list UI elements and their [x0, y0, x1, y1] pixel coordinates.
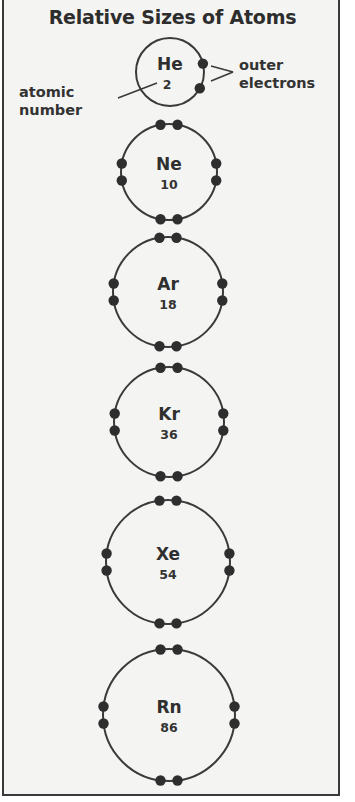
- outer-electrons-label-line2: electrons: [239, 74, 315, 92]
- electron-dot: [195, 83, 205, 93]
- electron-dot: [172, 644, 182, 654]
- element-symbol: Ne: [156, 154, 182, 174]
- atom-ne: Ne10: [117, 120, 222, 225]
- electron-dot: [172, 214, 182, 224]
- electron-dot: [171, 233, 181, 243]
- atomic-number: 2: [163, 77, 172, 92]
- electron-dot: [229, 718, 239, 728]
- electron-dot: [154, 618, 164, 628]
- electron-dot: [198, 58, 208, 68]
- atomic-number-label-line2: number: [19, 101, 82, 119]
- electron-dot: [229, 701, 239, 711]
- atom-xe: Xe54: [101, 495, 234, 628]
- element-symbol: Ar: [157, 274, 179, 294]
- electron-dot: [224, 565, 234, 575]
- electron-dot: [155, 363, 165, 373]
- element-symbol: He: [157, 54, 183, 74]
- atoms-diagram: He2Ne10Ar18Kr36Xe54Rn86: [0, 0, 355, 802]
- electron-dot: [110, 425, 120, 435]
- electron-dot: [155, 120, 165, 130]
- atom-kr: Kr36: [110, 363, 229, 482]
- electron-dot: [154, 233, 164, 243]
- element-symbol: Xe: [156, 544, 180, 564]
- electron-dot: [172, 120, 182, 130]
- electron-dot: [154, 341, 164, 351]
- electron-dot: [172, 363, 182, 373]
- electron-dot: [217, 278, 227, 288]
- electron-dot: [155, 214, 165, 224]
- electron-dot: [155, 471, 165, 481]
- electron-dot: [224, 548, 234, 558]
- atomic-number: 36: [160, 427, 178, 442]
- electron-dot: [211, 175, 221, 185]
- electron-dot: [171, 495, 181, 505]
- electron-dot: [110, 408, 120, 418]
- outer-electrons-label-line1: outer: [239, 56, 315, 74]
- atomic-number: 10: [160, 177, 178, 192]
- electron-dot: [172, 471, 182, 481]
- electron-dot: [117, 175, 127, 185]
- electron-dot: [109, 278, 119, 288]
- electron-dot: [171, 341, 181, 351]
- electron-dot: [155, 644, 165, 654]
- electron-dot: [217, 295, 227, 305]
- electron-dot: [172, 775, 182, 785]
- atomic-number-label: atomic number: [19, 83, 82, 119]
- electron-dot: [218, 408, 228, 418]
- atom-ar: Ar18: [109, 233, 228, 352]
- atom-he: He2: [136, 38, 208, 106]
- electron-dot: [98, 718, 108, 728]
- atomic-number: 18: [159, 297, 176, 312]
- electron-dot: [101, 548, 111, 558]
- outer-electrons-label: outer electrons: [239, 56, 315, 92]
- electron-dot: [211, 158, 221, 168]
- electron-dot: [101, 565, 111, 575]
- electron-dot: [171, 618, 181, 628]
- electron-dot: [155, 775, 165, 785]
- electron-dot: [98, 701, 108, 711]
- element-symbol: Rn: [156, 697, 181, 717]
- atomic-number: 54: [159, 567, 177, 582]
- electron-dot: [117, 158, 127, 168]
- atomic-number-label-line1: atomic: [19, 83, 82, 101]
- atomic-number: 86: [160, 720, 178, 735]
- element-symbol: Kr: [158, 404, 180, 424]
- electron-dot: [218, 425, 228, 435]
- atom-rn: Rn86: [98, 644, 239, 785]
- electron-dot: [154, 495, 164, 505]
- electron-dot: [109, 295, 119, 305]
